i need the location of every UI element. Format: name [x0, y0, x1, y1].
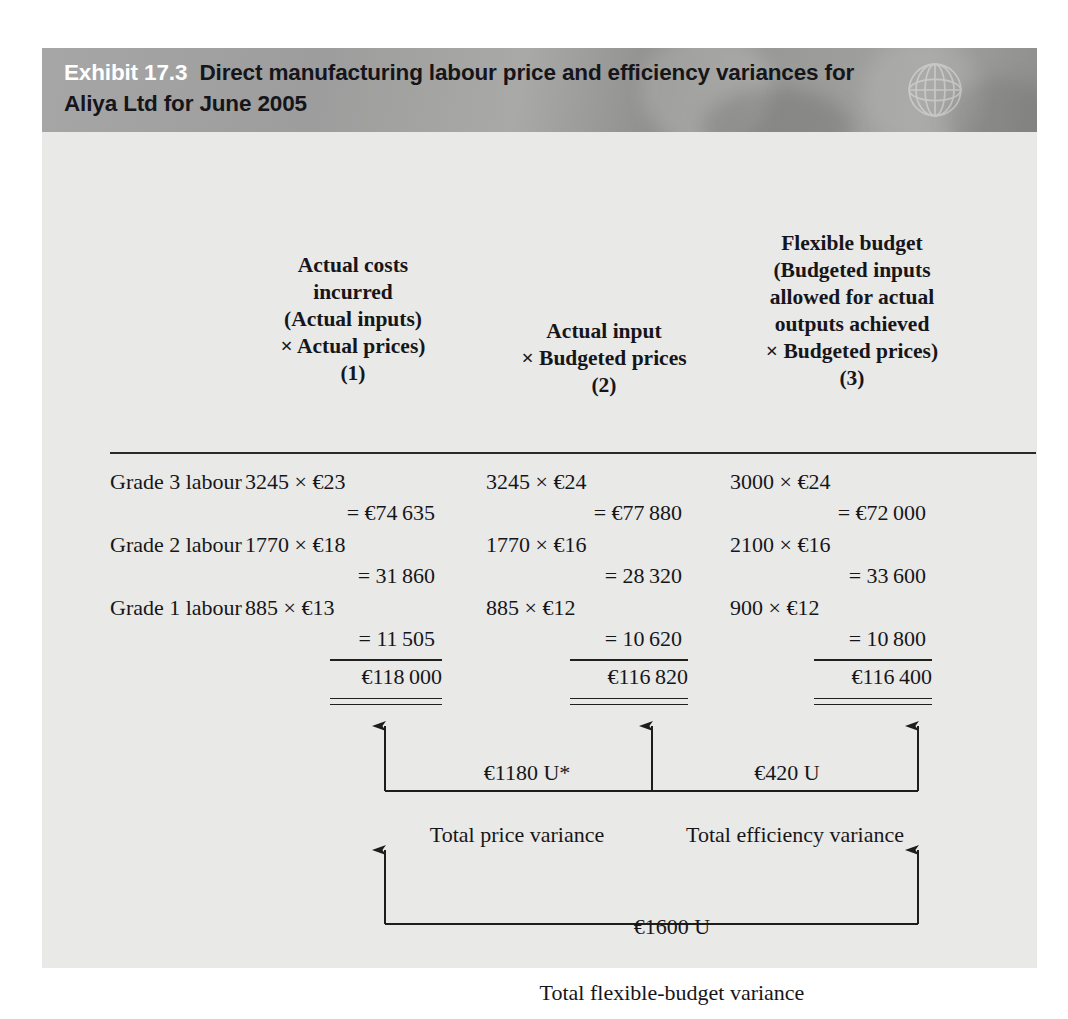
column-header-3: Flexible budget (Budgeted inputs allowed…: [732, 230, 972, 392]
header-rule: [110, 452, 1036, 454]
price-variance-amount: €1180 U*: [402, 760, 652, 786]
cell-r2-c2-result: = 28 320: [486, 563, 682, 589]
cell-r3-c3-result: = 10 800: [730, 626, 926, 652]
column-header-line: outputs achieved: [732, 311, 972, 338]
cell-r1-c3-product: 3000 × €24: [730, 469, 926, 495]
cell-r1-c1-result: = €74 635: [245, 500, 435, 526]
subtotal-rule-col1: [330, 659, 442, 661]
column-header-line: incurred: [249, 279, 457, 306]
cell-r3-c2-result: = 10 620: [486, 626, 682, 652]
exhibit-title-line-2: Aliya Ltd for June 2005: [64, 91, 307, 116]
efficiency-variance-amount: €420 U: [662, 760, 912, 786]
column-header-line: (Actual inputs): [249, 306, 457, 333]
cell-r3-c1-product: 885 × €13: [245, 595, 435, 621]
cell-r1-c1-product: 3245 × €23: [245, 469, 435, 495]
subtotal-rule-col3: [814, 659, 932, 661]
cell-r2-c1-result: = 31 860: [245, 563, 435, 589]
column-header-line: Actual costs: [249, 252, 457, 279]
total-double-rule-col2: [570, 698, 688, 705]
column-header-line: × Budgeted prices: [490, 345, 718, 372]
exhibit-number: Exhibit 17.3: [64, 60, 187, 85]
column-header-line: (Budgeted inputs: [732, 257, 972, 284]
exhibit-title-block: Exhibit 17.3 Direct manufacturing labour…: [64, 57, 887, 119]
row-label-grade-1: Grade 1 labour: [110, 595, 242, 621]
column-header-number: (1): [249, 360, 457, 387]
subtotal-rule-col2: [570, 659, 688, 661]
cell-r2-c3-product: 2100 × €16: [730, 532, 926, 558]
total-double-rule-col1: [330, 698, 442, 705]
cell-r2-c2-product: 1770 × €16: [486, 532, 682, 558]
globe-icon: [897, 52, 973, 128]
cell-r3-c3-product: 900 × €12: [730, 595, 926, 621]
column-header-line: Flexible budget: [732, 230, 972, 257]
efficiency-variance-label: Total efficiency variance: [630, 822, 960, 848]
flexible-budget-variance-label: Total flexible-budget variance: [372, 980, 972, 1006]
total-col3: €116 400: [782, 664, 932, 690]
exhibit-panel: Exhibit 17.3 Direct manufacturing labour…: [42, 48, 1037, 968]
cell-r2-c1-product: 1770 × €18: [245, 532, 435, 558]
column-header-2: Actual input × Budgeted prices (2): [490, 318, 718, 399]
total-col2: €116 820: [538, 664, 688, 690]
exhibit-title-line-1: Direct manufacturing labour price and ef…: [199, 60, 854, 85]
column-header-line: × Budgeted prices): [732, 338, 972, 365]
cell-r1-c2-product: 3245 × €24: [486, 469, 682, 495]
cell-r1-c2-result: = €77 880: [486, 500, 682, 526]
total-double-rule-col3: [814, 698, 932, 705]
column-header-line: allowed for actual: [732, 284, 972, 311]
column-header-line: Actual input: [490, 318, 718, 345]
row-label-grade-2: Grade 2 labour: [110, 532, 242, 558]
cell-r1-c3-result: = €72 000: [730, 500, 926, 526]
cell-r3-c2-product: 885 × €12: [486, 595, 682, 621]
column-header-line: × Actual prices): [249, 333, 457, 360]
column-header-number: (3): [732, 365, 972, 392]
price-variance-label: Total price variance: [372, 822, 662, 848]
exhibit-body: Actual costs incurred (Actual inputs) × …: [42, 132, 1037, 968]
row-label-grade-3: Grade 3 labour: [110, 469, 242, 495]
cell-r2-c3-result: = 33 600: [730, 563, 926, 589]
column-header-1: Actual costs incurred (Actual inputs) × …: [249, 252, 457, 387]
cell-r3-c1-result: = 11 505: [245, 626, 435, 652]
flexible-budget-variance-amount: €1600 U: [412, 914, 932, 940]
total-col1: €118 000: [292, 664, 442, 690]
column-header-number: (2): [490, 372, 718, 399]
exhibit-header-banner: Exhibit 17.3 Direct manufacturing labour…: [42, 48, 1037, 132]
